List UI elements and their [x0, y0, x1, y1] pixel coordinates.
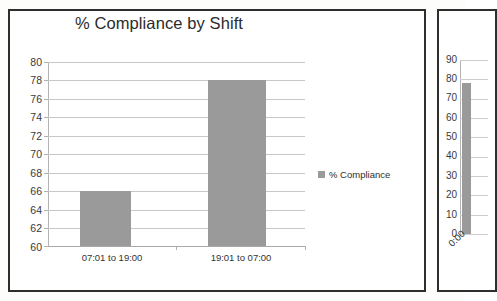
gridline-78	[48, 80, 305, 81]
gridline-68	[48, 173, 305, 174]
x-axis-tick	[305, 246, 306, 250]
secondary-y-axis-label: 20	[441, 190, 457, 200]
secondary-y-axis-label: 50	[441, 132, 457, 142]
chart-title-container: % Compliance by Shift	[30, 14, 288, 33]
gridline-74	[48, 117, 305, 118]
y-axis-label: 64	[8, 205, 42, 215]
secondary-plot-area	[460, 60, 488, 234]
secondary-gridline-90	[460, 60, 488, 61]
y-axis-label: 60	[8, 242, 42, 252]
secondary-bar[interactable]	[462, 83, 471, 234]
gridline-72	[48, 136, 305, 137]
secondary-y-axis-label: 90	[441, 55, 457, 65]
chart-title: % Compliance by Shift	[30, 14, 288, 33]
y-axis-label: 74	[8, 112, 42, 122]
y-axis-label: 68	[8, 168, 42, 178]
x-axis-label-day-shift: 07:01 to 19:00	[48, 252, 176, 263]
y-axis-label: 80	[8, 57, 42, 67]
secondary-y-axis-label-group: 90 80 70 60 50 40 30 20 10 0	[441, 0, 457, 301]
secondary-y-axis-label: 60	[441, 113, 457, 123]
y-axis-label: 72	[8, 131, 42, 141]
secondary-y-axis-label: 80	[441, 74, 457, 84]
y-axis-label: 76	[8, 94, 42, 104]
legend-label-compliance: % Compliance	[329, 169, 390, 180]
y-axis-label: 78	[8, 75, 42, 85]
secondary-y-axis-label: 10	[441, 210, 457, 220]
secondary-y-axis-label: 70	[441, 93, 457, 103]
gridline-70	[48, 154, 305, 155]
bar-shift-day[interactable]	[80, 191, 131, 246]
y-axis-label: 70	[8, 149, 42, 159]
legend-swatch-icon	[318, 171, 325, 178]
plot-area	[48, 62, 305, 246]
secondary-y-axis-label: 40	[441, 151, 457, 161]
secondary-gridline-80	[460, 79, 488, 80]
bar-shift-night[interactable]	[208, 80, 266, 246]
x-axis-label-night-shift: 19:01 to 07:00	[177, 252, 305, 263]
y-axis-label: 66	[8, 186, 42, 196]
x-axis-tick	[176, 246, 177, 250]
y-axis-label-group: 80 78 76 74 72 70 68 66 64 62 60	[6, 0, 42, 301]
gridline-76	[48, 99, 305, 100]
y-axis-label: 62	[8, 223, 42, 233]
secondary-y-axis-label: 30	[441, 171, 457, 181]
chart-legend[interactable]: % Compliance	[318, 169, 390, 180]
gridline-80	[48, 62, 305, 63]
